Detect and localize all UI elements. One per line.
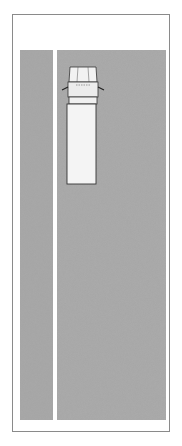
truck-cab: [69, 67, 97, 82]
lane-edge-stripe: [53, 50, 57, 420]
truck-trailer: [67, 104, 96, 184]
highway-diagram: [0, 0, 182, 446]
